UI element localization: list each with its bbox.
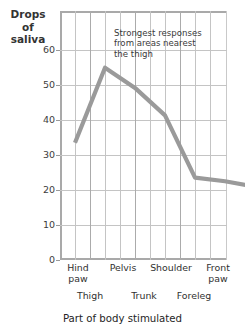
x-tick-label-foreleg-line-1: Foreleg <box>168 291 220 302</box>
annotation-line-3: the thigh <box>114 49 218 59</box>
x-tick-label-trunk-line-1: Trunk <box>121 291 167 302</box>
y-tick-label-10: 10 <box>31 220 55 230</box>
y-tick-label-60: 60 <box>31 45 55 55</box>
y-tick-label-30: 30 <box>31 150 55 160</box>
x-tick-label-front-paw: Front paw <box>194 263 242 284</box>
y-tick-label-0: 0 <box>31 255 55 265</box>
annotation-line-2: from areas nearest <box>114 38 218 48</box>
x-tick-label-front-paw-line-1: Front <box>194 263 242 274</box>
x-tick-label-trunk: Trunk <box>121 291 167 302</box>
x-tick-label-shoulder: Shoulder <box>143 263 199 274</box>
x-tick-label-hind-paw-line-2: paw <box>54 274 102 285</box>
x-tick-label-foreleg: Foreleg <box>168 291 220 302</box>
x-tick-label-thigh: Thigh <box>67 291 113 302</box>
series-polyline <box>75 68 245 187</box>
x-tick-label-shoulder-line-1: Shoulder <box>143 263 199 274</box>
x-tick-label-pelvis-line-1: Pelvis <box>100 263 146 274</box>
y-axis-title-line-1: Drops <box>2 8 54 21</box>
x-tick-label-hind-paw-line-1: Hind <box>54 263 102 274</box>
y-tick-mark-0 <box>56 260 60 261</box>
y-tick-label-50: 50 <box>31 80 55 90</box>
y-axis-title-line-2: of <box>2 21 54 34</box>
x-tick-label-hind-paw: Hind paw <box>54 263 102 284</box>
x-axis-title: Part of body stimulated <box>0 313 245 324</box>
y-axis-title: Drops of saliva <box>2 8 54 46</box>
chart-figure: Drops of saliva 60 50 40 30 20 10 0 <box>0 0 245 336</box>
x-tick-label-thigh-line-1: Thigh <box>67 291 113 302</box>
y-tick-label-40: 40 <box>31 115 55 125</box>
x-tick-label-pelvis: Pelvis <box>100 263 146 274</box>
x-tick-label-front-paw-line-2: paw <box>194 274 242 285</box>
annotation-line-1: Strongest responses <box>114 28 218 38</box>
chart-annotation: Strongest responses from areas nearest t… <box>114 28 218 59</box>
y-tick-label-20: 20 <box>31 185 55 195</box>
